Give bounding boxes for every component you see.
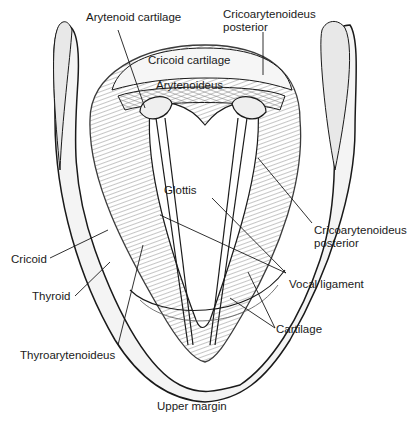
label-cricoid-cartilage: Cricoid cartilage [148,54,230,67]
label-cricoid: Cricoid [11,253,47,266]
label-vocal-ligament: Vocal ligament [289,278,364,291]
label-arytenoid-cartilage: Arytenoid cartilage [86,11,181,24]
larynx-diagram: Arytenoid cartilage Cricoarytenoideus po… [0,0,416,422]
label-glottis: Glottis [164,184,197,197]
label-thyroarytenoideus: Thyroarytenoideus [20,349,115,362]
label-cricoarytenoideus-posterior-top-1: Cricoarytenoideus [223,8,316,21]
label-cricoarytenoideus-posterior-top-2: posterior [223,21,268,34]
label-cartilage: Cartilage [276,323,322,336]
label-arytenoideus: Arytenoideus [156,79,223,92]
label-cricoarytenoideus-posterior-right-2: posterior [314,237,359,250]
label-thyroid: Thyroid [32,290,70,303]
label-cricoarytenoideus-posterior-right-1: Cricoarytenoideus [314,224,407,237]
label-upper-margin: Upper margin [157,400,227,413]
